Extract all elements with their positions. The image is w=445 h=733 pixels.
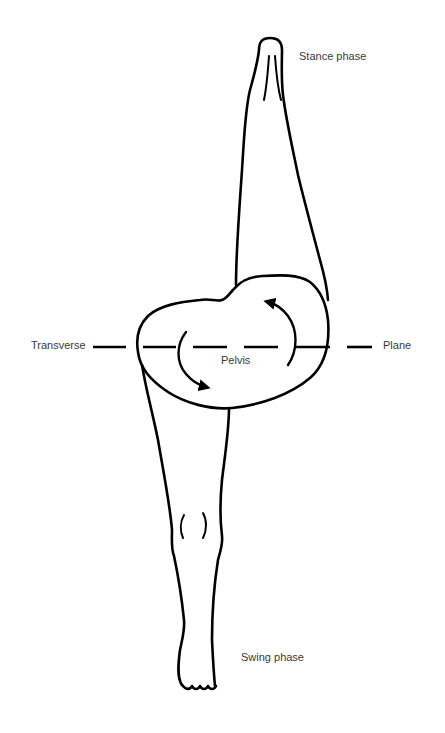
diagram-drawing	[0, 0, 445, 733]
swing-phase-label: Swing phase	[241, 652, 304, 663]
plane-label: Plane	[383, 340, 411, 351]
stance-leg-outline	[236, 38, 328, 300]
rotation-arrows	[179, 302, 296, 387]
stance-phase-label: Stance phase	[299, 51, 366, 62]
transverse-label: Transverse	[31, 340, 86, 351]
pelvis-label: Pelvis	[221, 355, 250, 366]
pelvis-outline	[137, 275, 328, 408]
stance-foot-toe-lines	[264, 56, 281, 100]
knee-marks	[181, 513, 206, 538]
pelvic-rotation-diagram: Stance phase Transverse Plane Pelvis Swi…	[0, 0, 445, 733]
swing-leg-outline	[142, 365, 229, 689]
